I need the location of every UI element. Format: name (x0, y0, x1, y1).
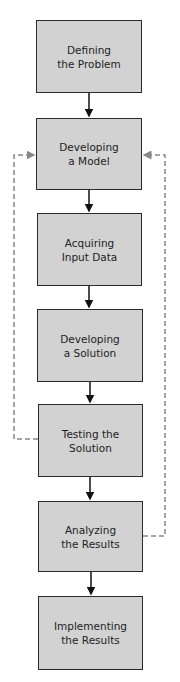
step-label: the Results (61, 537, 119, 551)
step-analyzing-results: Analyzingthe Results (38, 501, 143, 572)
step-label: Acquiring (62, 236, 118, 250)
step-testing-solution: Testing theSolution (38, 404, 143, 477)
step-label: Defining (57, 43, 121, 57)
step-label: a Solution (60, 346, 119, 360)
step-acquiring-input-data: AcquiringInput Data (37, 213, 142, 286)
step-label: the Results (54, 633, 127, 647)
feedback-loop-left (14, 155, 38, 439)
step-label: Solution (62, 441, 119, 455)
step-label: Testing the (62, 427, 119, 441)
step-developing-solution: Developinga Solution (37, 309, 143, 382)
step-developing-model: Developinga Model (36, 118, 142, 190)
step-label: Implementing (54, 619, 127, 633)
step-label: Developing (59, 140, 118, 154)
step-label: Developing (60, 332, 119, 346)
step-implementing-results: Implementingthe Results (38, 596, 143, 670)
feedback-loop-right (143, 155, 165, 536)
step-label: a Model (59, 154, 118, 168)
step-label: the Problem (57, 57, 121, 71)
step-label: Analyzing (61, 523, 119, 537)
step-defining-problem: Definingthe Problem (36, 20, 142, 93)
step-label: Input Data (62, 250, 118, 264)
